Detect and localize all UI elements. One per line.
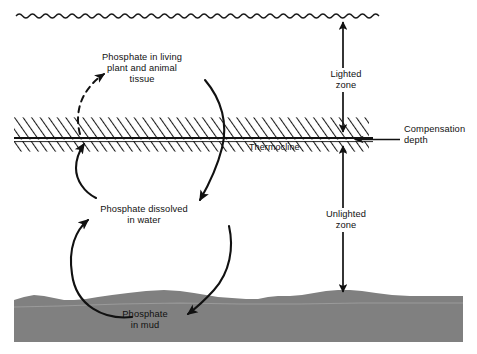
label-unlighted-zone: Unlighted zone [309, 208, 383, 232]
diagram-canvas [0, 0, 477, 354]
label-phosphate-dissolved-in-water: Phosphate dissolved in water [82, 204, 206, 226]
compensation-depth-line [14, 138, 373, 142]
label-thermocline: Thermocline [249, 142, 317, 153]
label-phosphate-living-tissue: Phosphate in living plant and animal tis… [84, 52, 200, 86]
label-phosphate-in-mud: Phosphate in mud [108, 309, 182, 331]
label-compensation-depth: Compensation depth [404, 124, 474, 146]
phosphate-cycle-diagram: Phosphate in living plant and animal tis… [0, 0, 477, 354]
label-lighted-zone: Lighted zone [313, 68, 379, 92]
